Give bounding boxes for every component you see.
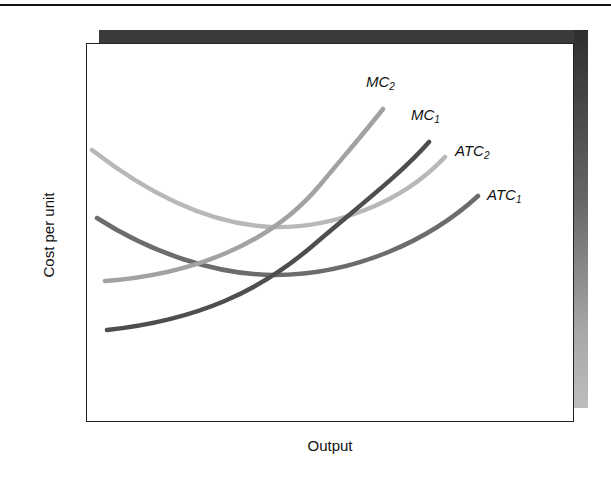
atc2-label-sub: 2 <box>484 150 490 161</box>
mc2-label: MC2 <box>366 73 395 92</box>
mc1-label: MC1 <box>411 106 440 125</box>
atc2-curve <box>92 150 445 227</box>
x-axis-label: Output <box>307 437 352 454</box>
atc1-label-sub: 1 <box>516 194 522 205</box>
atc2-label-main: ATC <box>455 142 484 159</box>
mc1-label-sub: 1 <box>434 114 440 125</box>
plot-area <box>0 0 611 482</box>
atc1-label-main: ATC <box>487 186 516 203</box>
mc1-label-main: MC <box>411 106 434 123</box>
y-axis-label: Cost per unit <box>40 192 57 277</box>
atc1-label: ATC1 <box>487 186 521 205</box>
mc1-curve <box>107 142 429 330</box>
mc2-label-sub: 2 <box>389 81 395 92</box>
mc2-curve <box>105 109 383 281</box>
atc2-label: ATC2 <box>455 142 489 161</box>
mc2-label-main: MC <box>366 73 389 90</box>
